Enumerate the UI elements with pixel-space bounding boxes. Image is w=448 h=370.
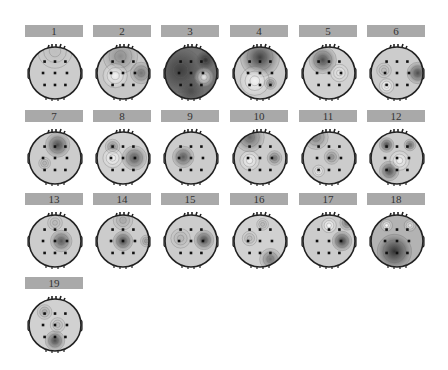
- topomap-label: 19: [25, 277, 83, 289]
- head-map: [299, 40, 359, 102]
- head-map: [367, 125, 427, 187]
- head-map: [25, 40, 85, 102]
- topomap-label: 5: [299, 25, 357, 37]
- topomap-label: 10: [230, 110, 288, 122]
- topomap-label: 1: [25, 25, 83, 37]
- topomap-7: 7: [25, 110, 85, 192]
- head-map: [93, 40, 153, 102]
- head-map: [25, 208, 85, 270]
- topomap-label: 13: [25, 193, 83, 205]
- topomap-label: 11: [299, 110, 357, 122]
- topomap-label: 9: [161, 110, 219, 122]
- topomap-label: 15: [161, 193, 219, 205]
- head-map: [230, 40, 290, 102]
- head-map: [230, 208, 290, 270]
- topomap-label: 14: [93, 193, 151, 205]
- topomap-label: 8: [93, 110, 151, 122]
- topomap-2: 2: [93, 25, 153, 107]
- topomap-1: 1: [25, 25, 85, 107]
- topomap-12: 12: [367, 110, 427, 192]
- head-map: [367, 40, 427, 102]
- head-map: [161, 208, 221, 270]
- topomap-label: 3: [161, 25, 219, 37]
- topomap-4: 4: [230, 25, 290, 107]
- head-map: [25, 125, 85, 187]
- topomap-10: 10: [230, 110, 290, 192]
- head-map: [161, 40, 221, 102]
- topomap-16: 16: [230, 193, 290, 275]
- topomap-label: 6: [367, 25, 425, 37]
- topomap-label: 18: [367, 193, 425, 205]
- head-map: [25, 292, 85, 354]
- topomap-label: 2: [93, 25, 151, 37]
- topomap-label: 16: [230, 193, 288, 205]
- topomap-13: 13: [25, 193, 85, 275]
- topomap-5: 5: [299, 25, 359, 107]
- head-map: [299, 125, 359, 187]
- topomap-15: 15: [161, 193, 221, 275]
- head-map: [367, 208, 427, 270]
- topomap-19: 19: [25, 277, 85, 359]
- head-map: [230, 125, 290, 187]
- head-map: [161, 125, 221, 187]
- topomap-label: 12: [367, 110, 425, 122]
- head-map: [93, 208, 153, 270]
- topomap-label: 17: [299, 193, 357, 205]
- topomap-label: 4: [230, 25, 288, 37]
- topomap-14: 14: [93, 193, 153, 275]
- head-map: [93, 125, 153, 187]
- topomap-9: 9: [161, 110, 221, 192]
- topomap-3: 3: [161, 25, 221, 107]
- topomap-17: 17: [299, 193, 359, 275]
- topomap-6: 6: [367, 25, 427, 107]
- topomap-label: 7: [25, 110, 83, 122]
- topomap-18: 18: [367, 193, 427, 275]
- topomap-8: 8: [93, 110, 153, 192]
- head-map: [299, 208, 359, 270]
- topomap-11: 11: [299, 110, 359, 192]
